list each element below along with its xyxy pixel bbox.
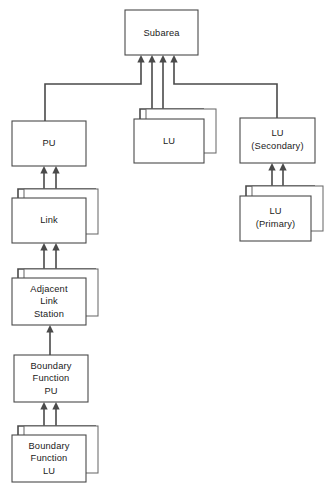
node-lu-primary[interactable]: LU (Primary)	[240, 186, 323, 241]
node-label-bfpu-line2: Function	[33, 373, 70, 383]
node-label-lu-primary-line1: LU	[269, 206, 281, 216]
node-label-als-line3: Station	[34, 309, 64, 319]
node-label-bfpu-line1: Boundary	[31, 361, 72, 371]
node-label-lu-secondary-line2: (Secondary)	[251, 141, 303, 151]
node-boundary-function-lu[interactable]: Boundary Function LU	[12, 426, 98, 482]
node-link[interactable]: Link	[12, 189, 98, 243]
node-pu[interactable]: PU	[12, 121, 86, 166]
node-adjacent-link-station[interactable]: Adjacent Link Station	[12, 269, 98, 325]
sna-hierarchy-diagram: Subarea PU LU LU (Secondary) LU (Primary…	[0, 0, 331, 495]
node-label-bflu-line3: LU	[43, 466, 55, 476]
node-label-lu: LU	[163, 136, 175, 146]
node-label-pu: PU	[42, 138, 55, 148]
node-label-lu-secondary-line1: LU	[271, 128, 283, 138]
node-label-bfpu-line3: PU	[44, 386, 57, 396]
node-label-bflu-line2: Function	[31, 453, 68, 463]
node-label-als-line1: Adjacent	[30, 284, 68, 294]
node-label-bflu-line1: Boundary	[29, 441, 70, 451]
node-label-link: Link	[40, 215, 58, 225]
node-lu-secondary[interactable]: LU (Secondary)	[240, 118, 315, 163]
node-label-subarea: Subarea	[143, 28, 180, 38]
node-label-lu-primary-line2: (Primary)	[256, 219, 296, 229]
node-boundary-function-pu[interactable]: Boundary Function PU	[14, 355, 88, 402]
node-subarea[interactable]: Subarea	[125, 10, 198, 55]
node-label-als-line2: Link	[40, 296, 58, 306]
node-lu[interactable]: LU	[134, 109, 216, 163]
connector-pu-to-subarea	[45, 55, 145, 121]
diagram-canvas: Subarea PU LU LU (Secondary) LU (Primary…	[0, 0, 331, 495]
connector-bfpu-to-als	[46, 325, 53, 355]
